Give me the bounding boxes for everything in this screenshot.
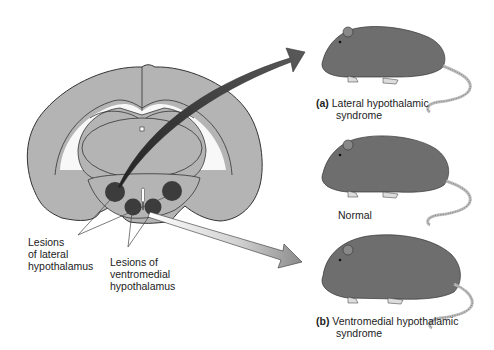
caption-text: Normal (338, 209, 372, 221)
label-lateral-lesions: Lesions of lateral hypothalamus (28, 236, 93, 272)
label-ventromedial-lesions: Lesions of ventromedial hypothalamus (110, 256, 175, 292)
lesion-vmh-left (125, 199, 142, 216)
label-line: hypothalamus (110, 280, 175, 292)
caption-letter: (a) (316, 97, 329, 109)
caption-text: Lateral hypothalamic (332, 97, 429, 109)
lesion-lateral-right (162, 181, 182, 201)
diagram-canvas (0, 0, 494, 350)
label-line: Lesions of (110, 256, 175, 268)
caption-letter: (b) (316, 315, 329, 327)
label-line: of lateral (28, 248, 93, 260)
label-line: hypothalamus (28, 260, 93, 272)
caption-text-line2: syndrome (316, 109, 429, 121)
caption-ventromedial-syndrome: (b) Ventromedial hypothalamic syndrome (316, 315, 458, 339)
caption-lateral-syndrome: (a) Lateral hypothalamic syndrome (316, 97, 429, 121)
caption-text: Ventromedial hypothalamic (332, 315, 458, 327)
caption-text-line2: syndrome (316, 327, 458, 339)
label-line: Lesions (28, 236, 93, 248)
label-line: ventromedial (110, 268, 175, 280)
caption-normal: Normal (338, 209, 372, 221)
